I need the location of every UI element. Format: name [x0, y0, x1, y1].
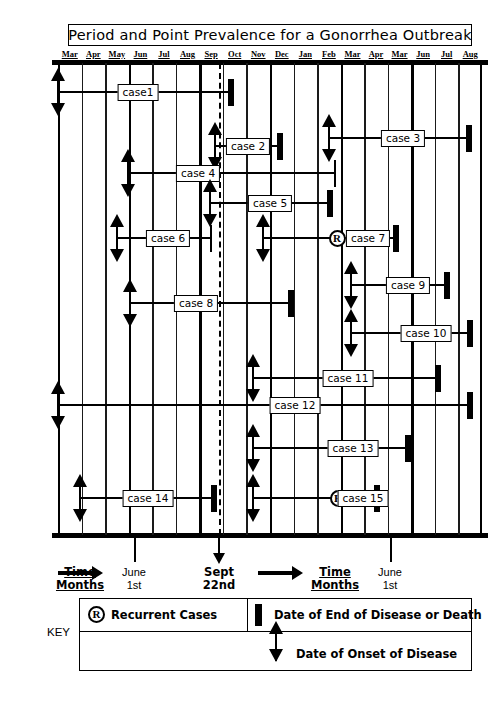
case-label-2[interactable]: case 2	[226, 138, 270, 155]
gridline-4	[152, 63, 154, 535]
gridline-11	[317, 63, 319, 535]
month-label-mar-14: Mar	[392, 49, 408, 59]
case-label-text: case 5	[253, 197, 287, 209]
june-1st-label-left: June1st	[109, 566, 159, 592]
chart-title-box: Period and Point Prevalence for a Gonorr…	[68, 24, 472, 46]
end-of-disease-marker	[467, 392, 474, 419]
month-label-feb-11: Feb	[322, 49, 336, 59]
month-label-mar-12: Mar	[344, 49, 360, 59]
month-label-aug-5: Aug	[180, 49, 195, 59]
end-of-disease-marker	[327, 190, 334, 217]
end-of-disease-marker	[405, 435, 412, 462]
case-label-text: case 12	[275, 399, 316, 411]
key-recurrent-text: Recurrent Cases	[111, 608, 217, 622]
time-label-right: TimeMonths	[305, 566, 365, 592]
case-label-7[interactable]: case 7	[346, 230, 390, 247]
end-of-disease-marker	[277, 133, 284, 160]
case-label-6[interactable]: case 6	[146, 230, 190, 247]
month-label-may-2: May	[109, 49, 126, 59]
case-duration-bar	[58, 404, 470, 406]
month-label-dec-9: Dec	[275, 49, 289, 59]
case-label-11[interactable]: case 11	[323, 370, 374, 387]
case-label-10[interactable]: case 10	[401, 325, 452, 342]
case-label-text: case 4	[181, 167, 215, 179]
chart-page: Period and Point Prevalence for a Gonorr…	[0, 0, 501, 716]
case-label-text: case1	[123, 86, 154, 98]
key-divider	[247, 599, 248, 632]
end-of-disease-marker	[435, 365, 442, 392]
case-label-9[interactable]: case 9	[386, 277, 430, 294]
case-label-5[interactable]: case 5	[248, 195, 292, 212]
case-duration-bar	[128, 172, 335, 174]
gridline-9	[270, 63, 272, 535]
end-of-disease-icon	[255, 604, 262, 626]
month-label-apr-13: Apr	[369, 49, 384, 59]
case-label-text: case 15	[343, 492, 384, 504]
case-label-text: case 9	[391, 279, 425, 291]
month-label-apr-1: Apr	[86, 49, 101, 59]
end-of-disease-marker	[466, 125, 473, 152]
end-of-disease-marker	[228, 79, 235, 106]
month-label-jun-3: Jun	[134, 49, 148, 59]
month-label-jul-4: Jul	[158, 49, 169, 59]
case-label-text: case 3	[386, 132, 420, 144]
gridline-7	[223, 63, 225, 535]
case-label-text: case 7	[351, 232, 385, 244]
end-of-disease-marker	[288, 290, 295, 317]
chart-plot-area: case1case 2case 3case 4case 5case 6Rcase…	[58, 63, 482, 535]
end-of-disease-marker	[467, 320, 474, 347]
gridline-18	[480, 63, 482, 535]
time-label-left: TimeMonths	[50, 566, 110, 592]
month-label-jun-15: Jun	[416, 49, 430, 59]
case-label-15[interactable]: case 15	[338, 490, 389, 507]
end-of-disease-marker	[210, 225, 212, 252]
recurrent-icon: R	[88, 606, 105, 623]
case-label-1[interactable]: case1	[118, 84, 159, 101]
case-label-text: case 2	[231, 140, 265, 152]
tick-june-1st-b	[390, 538, 392, 562]
gridline-13	[364, 63, 366, 535]
end-of-disease-marker	[393, 225, 400, 252]
key-box: R Recurrent Cases Date of End of Disease…	[79, 598, 472, 671]
case-label-text: case 8	[179, 297, 213, 309]
gridline-17	[458, 63, 460, 535]
recurrent-marker-icon: R	[329, 230, 346, 247]
month-label-aug-17: Aug	[463, 49, 478, 59]
end-of-disease-marker	[211, 485, 218, 512]
sept-22nd-label: Sept22nd	[189, 566, 249, 592]
gridline-0	[58, 63, 60, 535]
month-label-jul-16: Jul	[441, 49, 452, 59]
end-of-disease-marker	[334, 160, 336, 187]
key-label: KEY	[47, 626, 70, 638]
tick-june-1st-a	[134, 538, 136, 562]
case-label-text: case 13	[333, 442, 374, 454]
key-end-text: Date of End of Disease or Death	[274, 608, 482, 622]
end-of-disease-marker	[444, 272, 451, 299]
case-label-text: case 11	[328, 372, 369, 384]
case-label-3[interactable]: case 3	[381, 130, 425, 147]
month-label-sep-6: Sep	[204, 49, 217, 59]
case-label-8[interactable]: case 8	[174, 295, 218, 312]
page-title: Period and Point Prevalence for a Gonorr…	[68, 27, 471, 43]
case-label-13[interactable]: case 13	[328, 440, 379, 457]
case-label-text: case 6	[151, 232, 185, 244]
june-1st-label-right: June1st	[365, 566, 415, 592]
gridline-1	[82, 63, 84, 535]
month-label-nov-8: Nov	[251, 49, 266, 59]
gridline-2	[105, 63, 107, 535]
case-label-14[interactable]: case 14	[123, 490, 174, 507]
month-label-mar-0: Mar	[62, 49, 78, 59]
month-label-oct-7: Oct	[228, 49, 241, 59]
case-label-text: case 14	[128, 492, 169, 504]
key-onset-text: Date of Onset of Disease	[296, 647, 457, 661]
case-label-text: case 10	[406, 327, 447, 339]
case-label-12[interactable]: case 12	[270, 397, 321, 414]
month-label-jan-10: Jan	[299, 49, 312, 59]
gridline-16	[435, 63, 437, 535]
